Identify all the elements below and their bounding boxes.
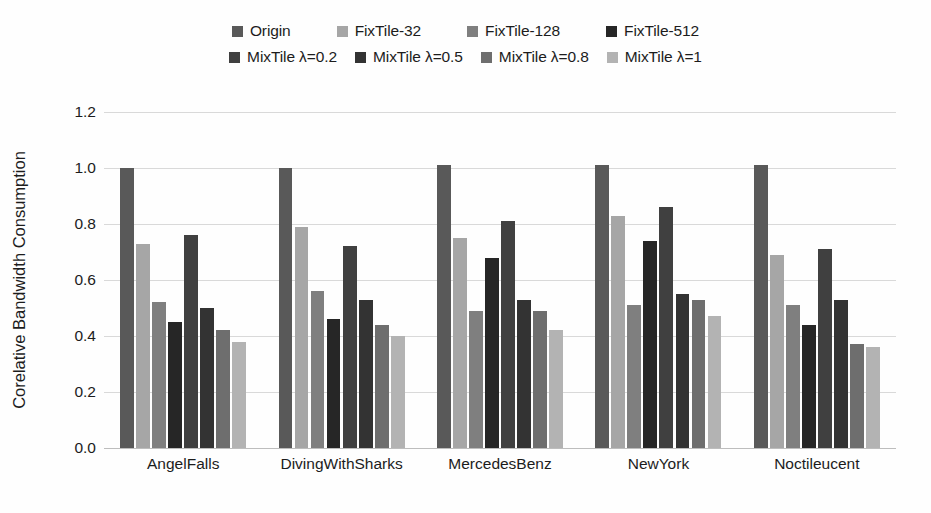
legend-item-label: FixTile-32 <box>355 22 421 40</box>
plot-area <box>104 112 896 448</box>
bar[interactable] <box>517 300 531 448</box>
legend-item[interactable]: FixTile-512 <box>606 22 699 40</box>
bar[interactable] <box>595 165 609 448</box>
legend-item-label: MixTile λ=0.2 <box>247 48 337 66</box>
bar[interactable] <box>359 300 373 448</box>
legend-swatch-icon <box>481 52 492 63</box>
legend-item[interactable]: MixTile λ=0.5 <box>355 48 463 66</box>
bar-groups <box>104 112 896 448</box>
bar-group <box>421 112 579 448</box>
bar-group-bars <box>753 112 881 448</box>
bar[interactable] <box>437 165 451 448</box>
bar[interactable] <box>549 330 563 448</box>
legend-item[interactable]: MixTile λ=0.2 <box>229 48 337 66</box>
chart-legend: OriginFixTile-32FixTile-128FixTile-512 M… <box>0 18 931 70</box>
x-axis-label: NewYork <box>579 455 737 473</box>
bar[interactable] <box>485 258 499 448</box>
bar-group <box>579 112 737 448</box>
bar-group-bars <box>277 112 405 448</box>
legend-item-label: MixTile λ=0.5 <box>373 48 463 66</box>
legend-item[interactable]: MixTile λ=0.8 <box>481 48 589 66</box>
x-axis-label: DivingWithSharks <box>262 455 420 473</box>
y-tick-label: 1.2 <box>50 103 96 121</box>
bar[interactable] <box>866 347 880 448</box>
legend-item[interactable]: MixTile λ=1 <box>607 48 702 66</box>
bar[interactable] <box>818 249 832 448</box>
legend-swatch-icon <box>232 26 243 37</box>
bar[interactable] <box>643 241 657 448</box>
bar[interactable] <box>708 316 722 448</box>
bar[interactable] <box>391 336 405 448</box>
legend-item-label: FixTile-512 <box>624 22 699 40</box>
bar[interactable] <box>168 322 182 448</box>
bar[interactable] <box>453 238 467 448</box>
bar[interactable] <box>311 291 325 448</box>
bar[interactable] <box>692 300 706 448</box>
legend-swatch-icon <box>607 52 618 63</box>
legend-item-label: FixTile-128 <box>485 22 560 40</box>
legend-swatch-icon <box>606 26 617 37</box>
legend-swatch-icon <box>355 52 366 63</box>
legend-item[interactable]: FixTile-128 <box>467 22 560 40</box>
bar-chart: OriginFixTile-32FixTile-128FixTile-512 M… <box>0 0 931 513</box>
bar[interactable] <box>295 227 309 448</box>
legend-item[interactable]: FixTile-32 <box>337 22 421 40</box>
legend-item-label: Origin <box>250 22 291 40</box>
bar-group-bars <box>119 112 247 448</box>
bar[interactable] <box>200 308 214 448</box>
bar[interactable] <box>152 302 166 448</box>
y-tick-label: 0.6 <box>50 271 96 289</box>
bar[interactable] <box>232 342 246 448</box>
y-tick-label: 0.2 <box>50 383 96 401</box>
legend-row-2: MixTile λ=0.2MixTile λ=0.5MixTile λ=0.8M… <box>0 44 931 70</box>
bar-group <box>738 112 896 448</box>
bar-group <box>262 112 420 448</box>
bar[interactable] <box>850 344 864 448</box>
x-axis-labels: AngelFallsDivingWithSharksMercedesBenzNe… <box>104 455 896 473</box>
bar[interactable] <box>136 244 150 448</box>
legend-row-1: OriginFixTile-32FixTile-128FixTile-512 <box>0 18 931 44</box>
bar[interactable] <box>469 311 483 448</box>
x-axis-label: AngelFalls <box>104 455 262 473</box>
y-axis-title-text: Corelative Bandwidth Consumption <box>10 151 29 409</box>
legend-item-label: MixTile λ=1 <box>625 48 702 66</box>
legend-swatch-icon <box>337 26 348 37</box>
bar[interactable] <box>533 311 547 448</box>
y-axis-ticks: 1.21.00.80.60.40.20.0 <box>44 112 96 448</box>
bar-group <box>104 112 262 448</box>
bar[interactable] <box>184 235 198 448</box>
bar[interactable] <box>120 168 134 448</box>
y-axis-title: Corelative Bandwidth Consumption <box>6 112 32 448</box>
bar-group-bars <box>436 112 564 448</box>
bar[interactable] <box>327 319 341 448</box>
y-tick-label: 1.0 <box>50 159 96 177</box>
bar[interactable] <box>501 221 515 448</box>
bar[interactable] <box>375 325 389 448</box>
legend-item-label: MixTile λ=0.8 <box>499 48 589 66</box>
y-tick-label: 0.0 <box>50 439 96 457</box>
bar[interactable] <box>627 305 641 448</box>
bar[interactable] <box>770 255 784 448</box>
bar[interactable] <box>834 300 848 448</box>
bar[interactable] <box>786 305 800 448</box>
y-tick-label: 0.4 <box>50 327 96 345</box>
y-tick-label: 0.8 <box>50 215 96 233</box>
x-axis-label: Noctileucent <box>738 455 896 473</box>
bar[interactable] <box>802 325 816 448</box>
bar[interactable] <box>216 330 230 448</box>
legend-swatch-icon <box>229 52 240 63</box>
bar[interactable] <box>279 168 293 448</box>
legend-item[interactable]: Origin <box>232 22 291 40</box>
bar-group-bars <box>594 112 722 448</box>
bar[interactable] <box>676 294 690 448</box>
legend-swatch-icon <box>467 26 478 37</box>
bar[interactable] <box>343 246 357 448</box>
bar[interactable] <box>754 165 768 448</box>
bar[interactable] <box>611 216 625 448</box>
bar[interactable] <box>659 207 673 448</box>
x-axis-label: MercedesBenz <box>421 455 579 473</box>
gridline <box>104 448 896 449</box>
